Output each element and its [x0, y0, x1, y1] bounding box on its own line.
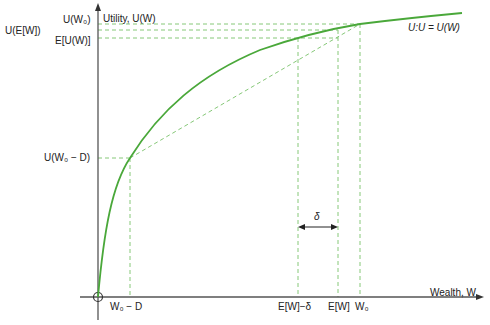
x-tick-ew-minus-delta: E[W]−δ	[278, 301, 311, 313]
y-axis-arrow-icon	[95, 3, 101, 11]
utility-diagram: Utility, U(W) Wealth, W U(W₀) U(E[W]) E[…	[0, 0, 490, 325]
x-tick-w0-minus-d: W₀ − D	[110, 301, 142, 313]
delta-arrow-left-icon	[298, 224, 305, 230]
curve-label: U:U = U(W)	[408, 22, 460, 34]
y-tick-eu-w: E[U(W)]	[55, 35, 91, 47]
delta-label: δ	[314, 211, 320, 223]
delta-arrow-right-icon	[331, 224, 338, 230]
utility-curve	[98, 13, 462, 297]
x-axis-label: Wealth, W	[430, 287, 476, 299]
x-tick-w0: W₀	[355, 301, 369, 313]
y-tick-u-w0-minus-d: U(W₀ − D)	[44, 152, 90, 164]
y-tick-u-ew: U(E[W])	[5, 25, 41, 37]
y-tick-u-w0: U(W₀)	[63, 14, 90, 26]
x-axis-arrow-icon	[476, 294, 484, 300]
y-axis-label: Utility, U(W)	[103, 13, 156, 25]
x-tick-ew: E[W]	[328, 301, 350, 313]
axes	[80, 8, 478, 320]
